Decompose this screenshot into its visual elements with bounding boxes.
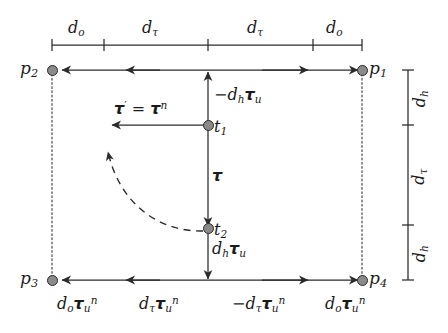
right-ruler-label-1: dh (412, 90, 430, 107)
node-t1 (203, 120, 214, 131)
rotation-arc (108, 152, 203, 231)
top-ruler-label-4: do (326, 20, 343, 38)
label-t1: t1 (214, 119, 227, 137)
top-ruler-label-1: do (68, 20, 85, 38)
label-dh-tau-u: dhτu (212, 241, 246, 259)
diagram-canvas: p2 p1 p3 p4 t1 t2 do dτ dτ do dh dτ dh −… (0, 0, 448, 333)
label-p4: p4 (369, 270, 387, 289)
node-p4 (357, 275, 368, 286)
label-tau: τ (212, 168, 222, 184)
bottom-label-3: −dττun (232, 295, 285, 314)
right-ruler-label-3: dh (412, 245, 430, 262)
label-t2: t2 (214, 222, 227, 240)
right-ruler-label-2: dτ (411, 169, 429, 185)
node-p2 (47, 65, 58, 76)
node-p1 (357, 65, 368, 76)
bottom-label-4: doτun (325, 295, 365, 314)
label-tau-prime-equals-tau-n: τ′ = τn (114, 100, 167, 117)
node-t2 (203, 223, 214, 234)
top-ruler-label-2: dτ (142, 20, 158, 38)
bottom-label-2: dττun (139, 295, 179, 314)
top-ruler-label-3: dτ (247, 20, 263, 38)
label-minus-dh-tau-u: −dhτu (214, 87, 261, 105)
bottom-label-1: doτun (57, 295, 97, 314)
label-p1: p1 (369, 60, 387, 79)
node-p3 (47, 275, 58, 286)
label-p3: p3 (20, 270, 38, 289)
top-ruler-line (52, 39, 362, 51)
label-p2: p2 (20, 60, 38, 79)
dotted-side-rails (52, 70, 362, 280)
